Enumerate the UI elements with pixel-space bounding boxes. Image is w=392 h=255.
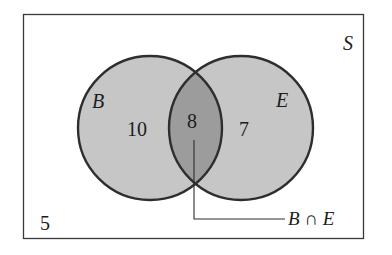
intersection-label: B ∩ E [288,208,335,229]
set-e-label: E [275,89,288,111]
intersection-count: 8 [187,110,197,132]
universe-label: S [343,32,353,54]
set-e-only-count: 7 [239,118,249,140]
set-b-only-count: 10 [127,118,147,140]
venn-diagram: S B E 10 8 7 5 B ∩ E [0,0,392,255]
set-b-label: B [92,90,104,112]
outside-count: 5 [40,212,50,234]
